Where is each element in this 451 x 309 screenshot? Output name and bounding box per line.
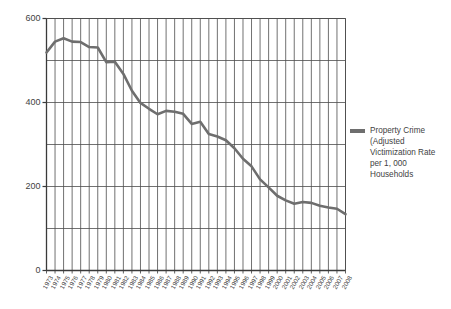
y-axis-tick-marks <box>43 19 346 274</box>
legend-label-property-crime: Property Crime (Adjusted Victimization R… <box>370 125 448 180</box>
y-axis-label-600: 600 <box>7 14 41 23</box>
property-crime-line-chart: 0200400600 19731974197519761977197819791… <box>0 0 451 309</box>
y-axis-label-200: 200 <box>7 182 41 191</box>
data-series-line-property-crime <box>47 38 346 214</box>
y-axis-label-0: 0 <box>7 266 41 275</box>
chart-legend: Property Crime (Adjusted Victimization R… <box>350 125 450 180</box>
legend-swatch-property-crime <box>350 129 365 133</box>
y-axis-label-400: 400 <box>7 98 41 107</box>
horizontal-gridlines <box>47 19 346 271</box>
